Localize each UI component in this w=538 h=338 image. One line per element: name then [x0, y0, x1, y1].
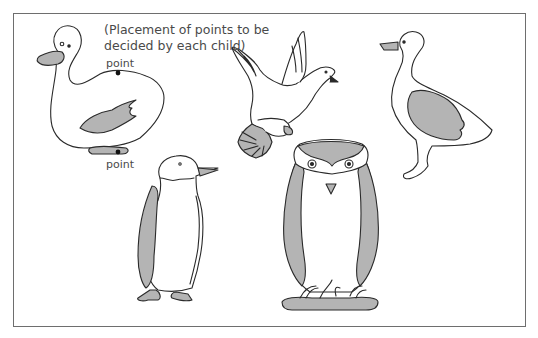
goose-illustration [380, 32, 492, 179]
instruction-text-line2: decided by each child) [104, 38, 245, 54]
bird-illustrations [0, 0, 538, 338]
dove-illustration [232, 32, 338, 158]
point-top-label: point [106, 56, 134, 72]
owl-illustration [282, 140, 378, 311]
penguin-illustration [138, 156, 218, 301]
instruction-text-line1: (Placement of points to be [104, 22, 269, 38]
point-bottom-label: point [106, 157, 134, 173]
